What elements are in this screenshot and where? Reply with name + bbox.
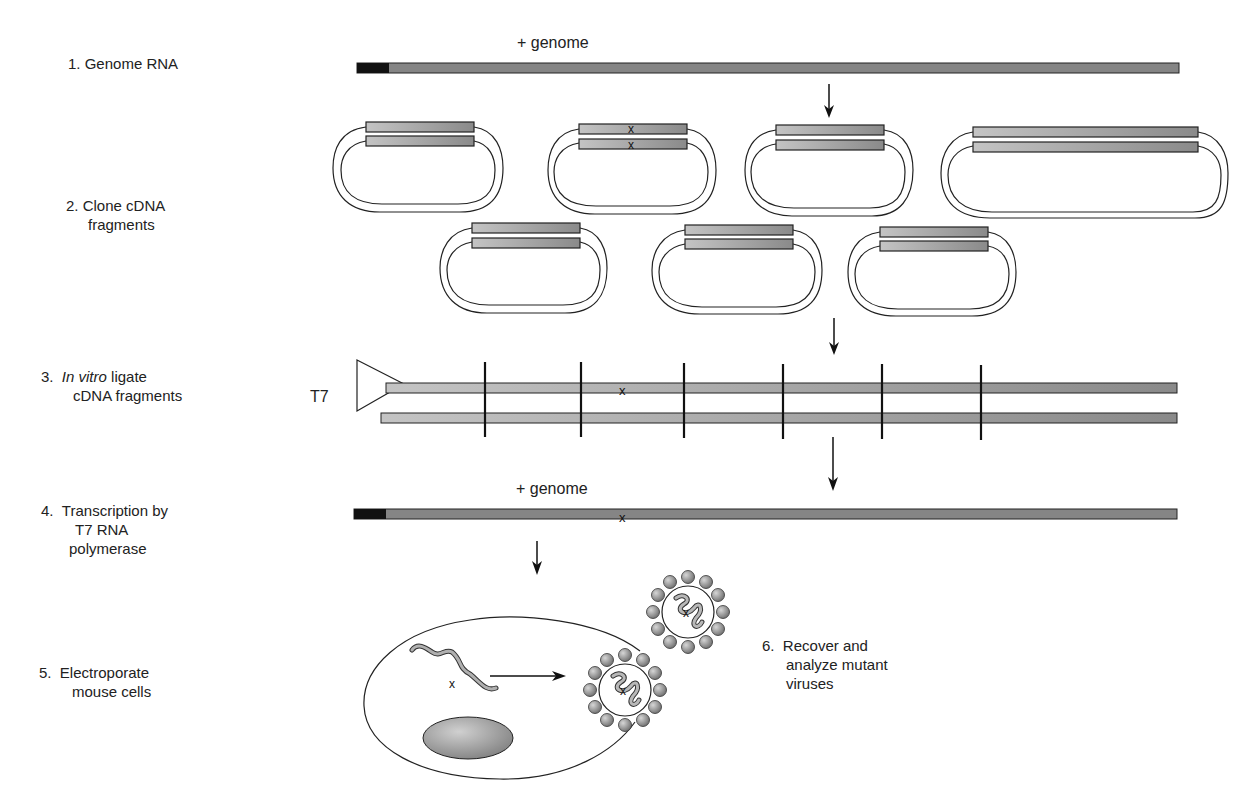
plasmid-6 [652, 225, 822, 314]
plasmid-2-mutant: x x [548, 122, 716, 214]
plasmid-5 [440, 223, 607, 313]
mouse-cell: x [364, 617, 640, 779]
ligated-cdna: x [381, 362, 1177, 440]
genome-rna-bottom: x [354, 509, 1177, 525]
nucleus [423, 717, 513, 759]
mutation-x: x [620, 684, 626, 698]
virus-particle-free: x [647, 571, 730, 654]
mutation-x: x [619, 383, 626, 398]
genome-rna-top [357, 63, 1179, 73]
mutation-x: x [628, 138, 634, 152]
diagram-canvas: x x [0, 0, 1247, 805]
mutation-x: x [619, 510, 626, 525]
plasmid-4-large [941, 127, 1228, 218]
plasmid-7 [848, 227, 1016, 316]
virus-particle-budding: x [584, 649, 667, 732]
mutation-x: x [683, 606, 689, 620]
plasmid-3 [745, 125, 913, 216]
mutation-x: x [449, 677, 455, 691]
mutation-x: x [628, 122, 634, 136]
plasmid-1 [333, 122, 503, 212]
